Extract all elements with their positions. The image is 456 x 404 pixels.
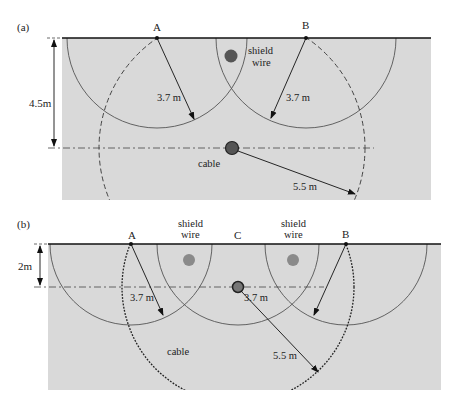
point-b-label: B <box>302 19 309 31</box>
cable-b <box>233 282 244 293</box>
shield-wire-right-label-2: wire <box>284 229 303 240</box>
point-b-label-b: B <box>342 228 349 240</box>
shield-wire-left-label-2: wire <box>181 229 200 240</box>
shield-wire-right-b <box>287 254 299 266</box>
shield-wire-label-a-1: shield <box>248 45 274 56</box>
shield-wire-left-label-1: shield <box>178 218 204 229</box>
cable-label-b: cable <box>167 346 189 357</box>
radius-label-a-b: 3.7 m <box>130 292 154 303</box>
point-a-label: A <box>153 21 161 33</box>
point-c-label-b: C <box>234 229 241 241</box>
shield-wire-right-label-1: shield <box>281 218 307 229</box>
radius-label-cable-b: 5.5 m <box>273 350 297 361</box>
radius-label-a: 3.7 m <box>157 92 181 103</box>
diagram: (a) 4.5m A B shield wire cable 3.7 m 3.7… <box>0 0 456 404</box>
depth-label-a: 4.5m <box>29 97 52 109</box>
point-a-label-b: A <box>128 229 136 241</box>
shield-wire-left-b <box>183 254 195 266</box>
radius-label-b: 3.7 m <box>286 92 310 103</box>
panel-a-label: (a) <box>17 21 30 34</box>
cable-label-a: cable <box>198 158 220 169</box>
cable-a <box>226 142 239 155</box>
depth-label-b: 2m <box>18 260 33 272</box>
shield-wire-a <box>225 50 238 63</box>
panel-b-label: (b) <box>17 218 30 231</box>
shield-wire-label-a-2: wire <box>252 57 271 68</box>
radius-label-cable-a: 5.5 m <box>293 181 317 192</box>
panel-a: (a) 4.5m A B shield wire cable 3.7 m 3.7… <box>17 0 431 281</box>
